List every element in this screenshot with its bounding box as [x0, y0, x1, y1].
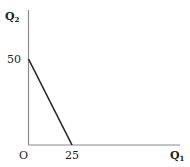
y-axis-label: Q2 [5, 11, 19, 23]
origin-label: O [19, 150, 28, 161]
x-axis-label-base: Q [170, 149, 180, 162]
budget-line [29, 59, 73, 145]
x-tick-25: 25 [65, 150, 79, 161]
y-axis-label-base: Q [5, 10, 15, 23]
x-axis-label: Q1 [170, 150, 184, 162]
y-tick-50: 50 [7, 54, 21, 65]
chart-canvas [0, 0, 190, 167]
y-axis-label-sub: 2 [15, 15, 20, 24]
x-axis-label-sub: 1 [180, 154, 185, 163]
